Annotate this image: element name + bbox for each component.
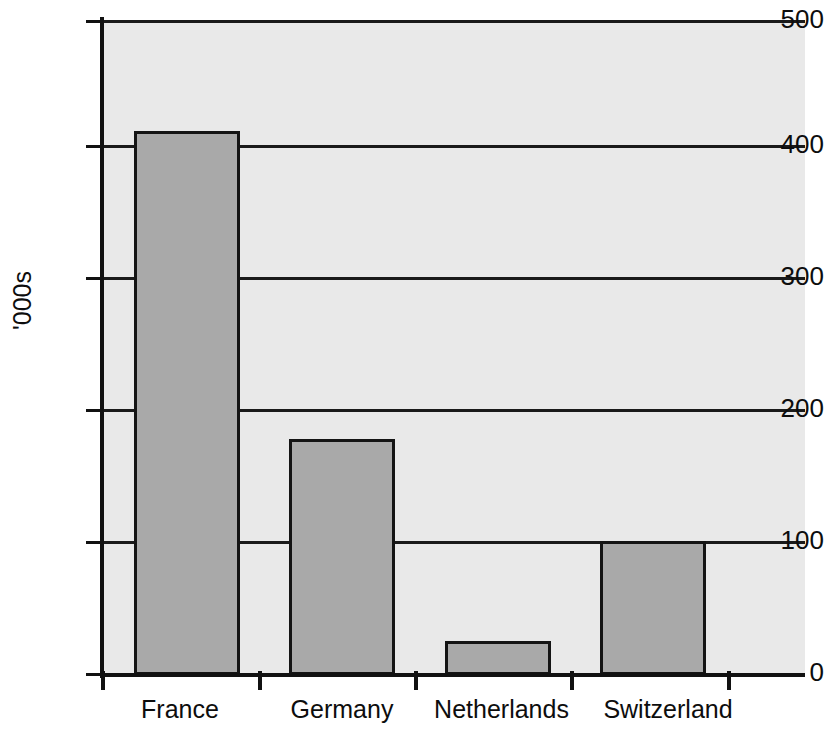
x-tick-4: [727, 671, 731, 690]
x-axis-line: [100, 673, 805, 677]
y-tick-label-200: 200: [744, 395, 824, 421]
y-tick-200: [86, 409, 103, 412]
y-tick-label-0: 0: [744, 659, 824, 685]
x-category-label-netherlands: Netherlands: [424, 697, 579, 722]
y-axis-line: [100, 17, 104, 678]
y-tick-label-100: 100: [744, 527, 824, 553]
y-tick-100: [86, 541, 103, 544]
x-tick-3: [570, 671, 574, 690]
bar-france: [134, 131, 240, 675]
gridline-500: [103, 20, 805, 23]
y-tick-label-300: 300: [744, 263, 824, 289]
x-tick-1: [258, 671, 262, 690]
y-tick-label-400: 400: [744, 131, 824, 157]
x-category-label-germany: Germany: [272, 697, 412, 722]
y-axis-title: '000s: [8, 271, 37, 330]
bar-chart: 500 400 300 200 100 0 '000s France Germa…: [0, 0, 824, 747]
y-tick-300: [86, 277, 103, 280]
bar-netherlands: [445, 641, 551, 675]
x-category-label-switzerland: Switzerland: [588, 697, 748, 722]
x-tick-2: [414, 671, 418, 690]
x-category-label-france: France: [115, 697, 245, 722]
y-tick-label-500: 500: [744, 6, 824, 32]
y-tick-400: [86, 145, 103, 148]
y-tick-500: [86, 20, 103, 23]
x-tick-0: [101, 671, 105, 690]
bar-switzerland: [600, 541, 706, 675]
bar-germany: [289, 439, 395, 675]
